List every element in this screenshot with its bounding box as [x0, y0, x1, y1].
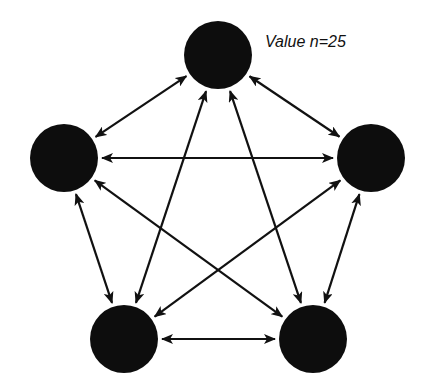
edges-group [76, 76, 359, 339]
nodes-group [30, 21, 405, 373]
edge-right-bottom-left [155, 180, 341, 316]
node-top [184, 21, 252, 89]
node-left [30, 124, 98, 192]
edge-right-bottom-right [325, 194, 360, 303]
edge-top-bottom-right [230, 91, 301, 303]
network-diagram [0, 0, 423, 390]
edge-left-bottom-right [95, 180, 283, 316]
edge-top-right [250, 76, 340, 137]
edge-top-bottom-left [136, 91, 206, 303]
edge-left-bottom-left [76, 194, 112, 303]
edge-top-left [96, 76, 187, 137]
annotation-label: Value n=25 [265, 33, 346, 51]
node-right [337, 124, 405, 192]
node-bottom-left [90, 305, 158, 373]
node-bottom-right [279, 305, 347, 373]
